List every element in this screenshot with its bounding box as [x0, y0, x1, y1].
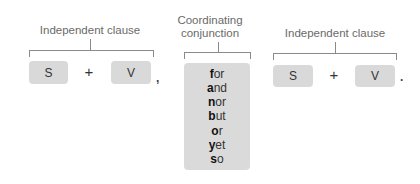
left-verb-box: V — [111, 61, 151, 84]
right-clause-title: Independent clause — [275, 27, 395, 40]
conjunction-title-line2: conjunction — [170, 27, 250, 40]
right-bracket — [273, 53, 397, 60]
conjunction-word-and: and — [207, 81, 227, 95]
period: . — [400, 70, 403, 84]
left-subject-box: S — [29, 61, 68, 84]
left-bracket-stem — [90, 39, 91, 50]
right-subject-box: S — [273, 65, 313, 87]
conjunction-bracket — [184, 52, 251, 59]
right-plus-sign: + — [330, 66, 339, 83]
left-clause-title: Independent clause — [30, 24, 150, 37]
conjunction-list-box: for and nor but or yet so — [184, 63, 250, 170]
conjunction-title-line1: Coordinating — [170, 14, 250, 27]
conjunction-word-nor: nor — [208, 95, 226, 109]
conjunction-word-or: or — [211, 124, 222, 138]
left-plus-sign: + — [85, 63, 94, 80]
conjunction-word-so: so — [210, 152, 223, 166]
right-bracket-stem — [335, 42, 336, 53]
left-bracket — [29, 50, 154, 57]
comma: , — [156, 71, 159, 85]
conjunction-word-for: for — [210, 67, 225, 81]
conjunction-word-but: but — [208, 109, 225, 123]
conjunction-title: Coordinating conjunction — [170, 14, 250, 40]
conjunction-bracket-stem — [218, 42, 219, 52]
conjunction-word-yet: yet — [209, 138, 226, 152]
right-verb-box: V — [355, 65, 395, 87]
